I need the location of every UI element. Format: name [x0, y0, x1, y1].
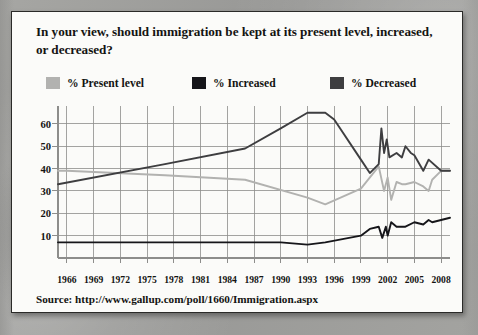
x-tick-label: 1996	[325, 274, 344, 285]
x-tick-label: 1966	[57, 274, 76, 285]
plot-area	[12, 96, 464, 276]
x-axis: 1966196919721975197819811984198719901993…	[12, 274, 464, 292]
x-tick-label: 1990	[271, 274, 290, 285]
axis-tick-marks	[52, 106, 450, 263]
x-tick-label: 1978	[164, 274, 183, 285]
source-note: Source: http://www.gallup.com/poll/1660/…	[36, 293, 318, 305]
x-tick-label: 1993	[298, 274, 317, 285]
page-title: In your view, should immigration be kept…	[36, 23, 440, 58]
x-tick-label: 1984	[218, 274, 237, 285]
x-tick-label: 2008	[431, 274, 450, 285]
x-tick-label: 1969	[84, 274, 103, 285]
line-chart-svg	[12, 96, 464, 276]
x-tick-label: 1987	[244, 274, 263, 285]
legend-swatch-decreased	[330, 77, 344, 89]
legend-swatch-increased	[192, 77, 206, 89]
legend-label-present-level: % Present level	[67, 77, 144, 90]
legend-swatch-present-level	[46, 77, 60, 89]
legend-item-decreased[interactable]: % Decreased	[330, 74, 416, 92]
chart-legend: % Present level % Increased % Decreased	[46, 74, 446, 94]
legend-item-present-level[interactable]: % Present level	[46, 74, 144, 92]
legend-label-increased: % Increased	[213, 77, 276, 90]
x-tick-label: 2002	[378, 274, 397, 285]
legend-label-decreased: % Decreased	[351, 77, 416, 90]
x-tick-label: 2005	[405, 274, 424, 285]
legend-item-increased[interactable]: % Increased	[192, 74, 276, 92]
x-tick-label: 1975	[137, 274, 156, 285]
figure-card: In your view, should immigration be kept…	[11, 11, 463, 313]
x-tick-label: 1999	[351, 274, 370, 285]
backdrop-streak-right	[462, 0, 478, 335]
x-tick-label: 1981	[191, 274, 210, 285]
x-tick-label: 1972	[111, 274, 130, 285]
